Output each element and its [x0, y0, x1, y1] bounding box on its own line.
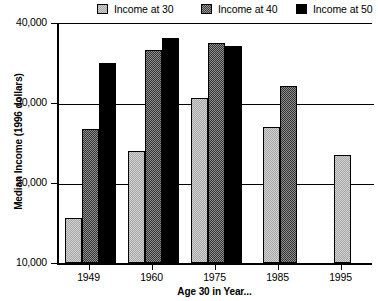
y-axis-title: Median Income (1996 dollars): [13, 47, 24, 237]
bar-1949-series-1[interactable]: [82, 129, 99, 263]
legend-label-income-at-40: Income at 40: [218, 4, 278, 15]
chart-legend: Income at 30 Income at 40 Income at 50: [0, 0, 378, 18]
legend-label-income-at-50: Income at 50: [313, 4, 373, 15]
x-tick-label-1949: 1949: [59, 272, 119, 283]
y-tick-mark: [51, 263, 58, 264]
y-tick-label: 30,000: [3, 97, 47, 108]
x-tick-mark: [215, 265, 216, 270]
legend-item-income-at-50[interactable]: Income at 50: [296, 2, 373, 16]
y-tick-mark: [51, 103, 58, 104]
y-tick-label: 20,000: [3, 177, 47, 188]
bar-1975-series-0[interactable]: [191, 98, 208, 263]
legend-swatch-icon-income-at-40: [201, 4, 212, 14]
y-tick-mark: [51, 183, 58, 184]
bar-1975-series-2[interactable]: [225, 46, 242, 263]
y-tick-label: 10,000: [3, 257, 47, 268]
bar-chart: Income at 30 Income at 40 Income at 50 M…: [0, 0, 378, 301]
bar-1975-series-1[interactable]: [208, 43, 225, 263]
bar-1985-series-1[interactable]: [280, 86, 297, 263]
x-tick-mark: [89, 265, 90, 270]
y-tick-label: 40,000: [3, 17, 47, 28]
x-axis-title: Age 30 in Year...: [57, 286, 372, 297]
bar-series-container: [59, 23, 372, 263]
x-tick-mark: [278, 265, 279, 270]
x-tick-mark: [152, 265, 153, 270]
bar-1949-series-2[interactable]: [99, 63, 116, 263]
x-tick-label-1985: 1985: [248, 272, 308, 283]
bar-1960-series-2[interactable]: [162, 38, 179, 263]
x-tick-label-1975: 1975: [185, 272, 245, 283]
legend-item-income-at-40[interactable]: Income at 40: [201, 2, 278, 16]
bar-1960-series-0[interactable]: [128, 151, 145, 263]
x-tick-label-1995: 1995: [311, 272, 371, 283]
legend-swatch-icon-income-at-50: [296, 4, 307, 14]
legend-swatch-icon-income-at-30: [97, 4, 108, 14]
bar-1960-series-1[interactable]: [145, 50, 162, 263]
bar-1995-series-0[interactable]: [334, 155, 351, 263]
bar-1985-series-0[interactable]: [263, 127, 280, 263]
bar-1949-series-0[interactable]: [65, 218, 82, 263]
legend-label-income-at-30: Income at 30: [114, 4, 174, 15]
x-tick-label-1960: 1960: [122, 272, 182, 283]
y-tick-mark: [51, 23, 58, 24]
legend-item-income-at-30[interactable]: Income at 30: [97, 2, 174, 16]
x-tick-mark: [341, 265, 342, 270]
